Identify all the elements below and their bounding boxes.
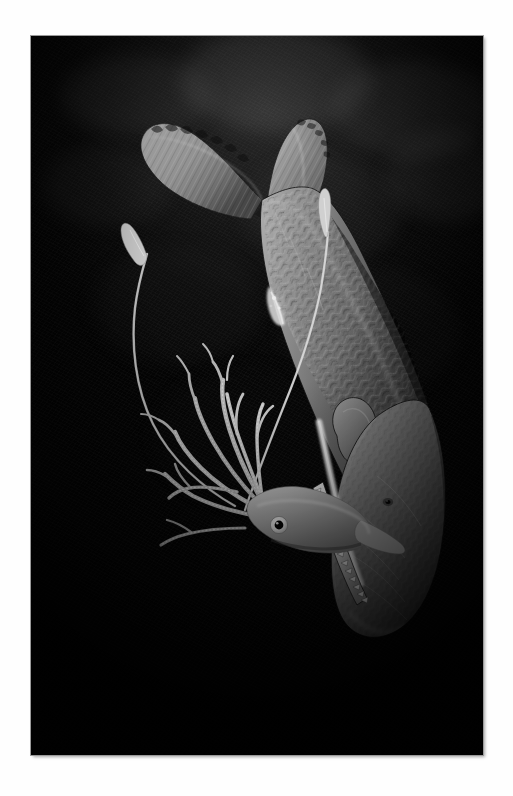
- illustration-plate: [31, 36, 483, 755]
- plate-vignette: [31, 36, 483, 755]
- page-canvas: [0, 0, 513, 796]
